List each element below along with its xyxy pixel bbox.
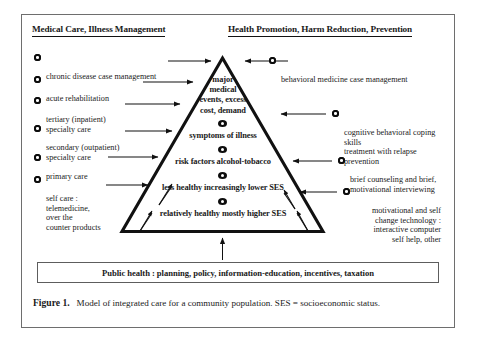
heading-medical-care: Medical Care, Illness Management: [32, 24, 165, 37]
list-item-label: self care : telemedicine, over the count…: [46, 194, 101, 232]
list-item-label: motivational and self change technology …: [372, 206, 441, 244]
pyramid-divider-dot-1: [218, 120, 227, 127]
pyramid-divider-dot-2: [218, 146, 227, 153]
list-item-right-4: motivational and self change technology …: [355, 187, 441, 245]
pyramid-level-5: relatively healthy mostly higher SES: [116, 209, 330, 219]
list-item-left-6: self care : telemedicine, over the count…: [46, 175, 138, 233]
heading-health-promotion: Health Promotion, Harm Reduction, Preven…: [228, 24, 412, 37]
figure-caption: Figure 1.Model of integrated care for a …: [33, 297, 444, 310]
public-health-bar: Public health : planning, policy, inform…: [37, 262, 439, 283]
pyramid-level-3: risk factors alcohol-tobacco: [140, 157, 306, 167]
pyramid-divider-dot-3: [218, 172, 227, 179]
pyramid-level-2: symptoms of illness: [160, 131, 286, 141]
figure-number: Figure 1.: [33, 297, 70, 308]
list-item-label: behavioral medicine case management: [281, 75, 408, 84]
public-health-label: Public health : planning, policy, inform…: [102, 268, 374, 278]
figure-caption-text: Model of integrated care for a community…: [77, 298, 380, 308]
list-item-right-1: behavioral medicine case management: [281, 56, 443, 85]
pyramid-level-4: less healthy increasingly lower SES: [124, 183, 322, 193]
figure-page: Medical Care, Illness Management Health …: [0, 0, 479, 338]
pyramid-divider-dot-4: [218, 198, 227, 205]
